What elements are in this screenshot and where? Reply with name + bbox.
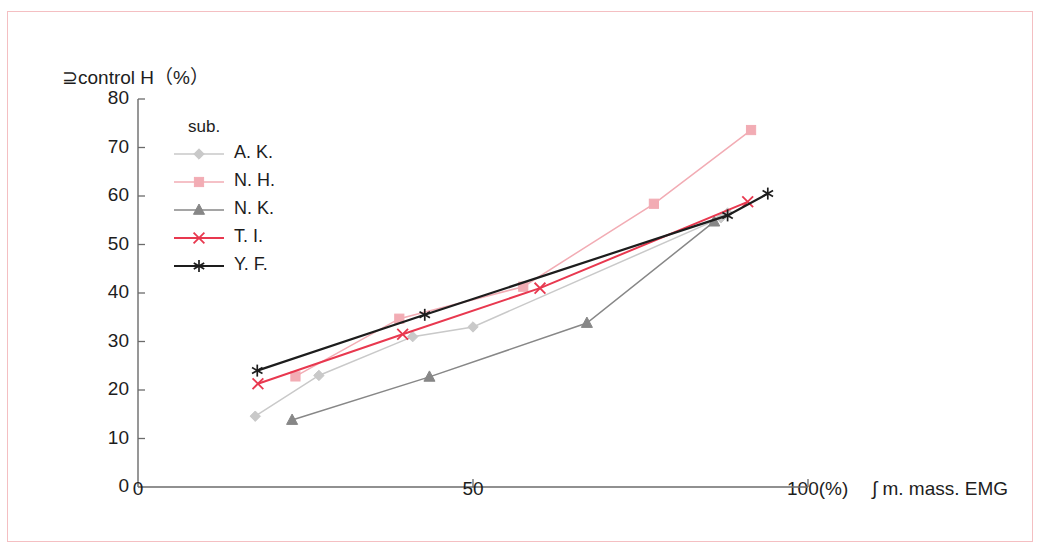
legend-label: N. H.	[234, 170, 275, 191]
y-tick-label: 40	[85, 281, 129, 303]
triangle-icon	[172, 199, 228, 221]
legend-label: T. I.	[234, 226, 263, 247]
legend-label: A. K.	[234, 142, 273, 163]
marker-diamond	[314, 370, 324, 380]
y-tick-label: 10	[85, 427, 129, 449]
marker-square	[194, 177, 203, 186]
y-tick-label: 60	[85, 184, 129, 206]
x-tick-label: 0	[108, 478, 168, 500]
data-series-layer	[250, 125, 773, 424]
marker-diamond	[194, 149, 204, 159]
series-line	[257, 194, 768, 371]
asterisk-icon	[172, 255, 228, 277]
legend-label: N. K.	[234, 198, 274, 219]
marker-asterisk	[252, 365, 262, 377]
chart-canvas	[0, 0, 1043, 554]
marker-x	[535, 283, 546, 294]
series-nh	[291, 125, 756, 381]
y-axis-ticks	[138, 99, 145, 439]
marker-diamond	[468, 322, 478, 332]
marker-asterisk	[763, 188, 773, 200]
marker-x	[253, 378, 264, 389]
legend-label: Y. F.	[234, 254, 268, 275]
series-line	[292, 222, 714, 420]
marker-triangle	[193, 204, 204, 214]
y-tick-label: 70	[85, 136, 129, 158]
square-icon	[172, 171, 228, 193]
series-ak	[250, 208, 733, 422]
marker-square	[291, 372, 300, 381]
series-line	[255, 213, 727, 416]
x-tick-label: 50	[443, 478, 503, 500]
series-line	[295, 130, 751, 376]
series-ti	[253, 196, 754, 389]
x-icon	[172, 227, 228, 249]
marker-square	[649, 199, 658, 208]
y-tick-label: 80	[85, 87, 129, 109]
marker-x	[397, 329, 408, 340]
y-tick-label: 30	[85, 330, 129, 352]
y-tick-label: 50	[85, 233, 129, 255]
y-tick-label: 20	[85, 378, 129, 400]
x-axis-ticks	[473, 479, 808, 487]
marker-diamond	[250, 411, 260, 421]
diamond-icon	[172, 143, 228, 165]
marker-triangle	[581, 317, 592, 327]
marker-square	[746, 125, 755, 134]
